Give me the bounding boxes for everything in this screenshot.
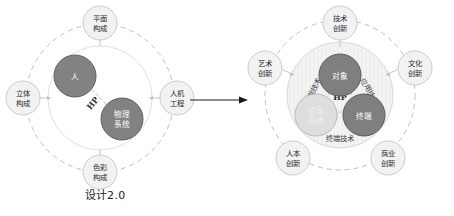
spoke-label-terminal-technology: 终端技术 [326, 134, 354, 143]
core-circle-physical-system-label-1: 物理 [114, 109, 130, 119]
design-2-0-panel: 人 物理 系统 HP 平面 构成 立体 构成 人机 工程 色彩 构成 设计2.0 [0, 0, 227, 216]
outer-node-color-composition-label-1: 色彩 [93, 163, 108, 172]
outer-node-art-innovation-label-1: 艺术 [258, 59, 273, 68]
tick-left-arrowhead [47, 96, 51, 100]
outer-node-ergonomics-label-1: 人机 [170, 89, 185, 98]
outer-node-technology-innovation-label-1: 技术 [333, 14, 348, 23]
design-3-0-svg: HP 创能技术 应用技术 终端技术 对象 信息 系统 终端 技术 创新 艺术 [227, 0, 454, 216]
spoke-tick-upper-left [283, 70, 293, 74]
outer-node-plane-composition-label-1: 平面 [93, 14, 107, 23]
outer-node-solid-composition-label-2: 构成 [16, 99, 31, 108]
outer-node-plane-composition-label-2: 构成 [93, 24, 108, 33]
outer-node-solid-composition-label-1: 立体 [16, 89, 31, 98]
outer-node-humanistic-innovation-label-1: 人本 [286, 149, 301, 158]
core-circle-info-system-label-2: 系统 [308, 115, 324, 125]
core-circle-info-system-label-1: 信息 [308, 105, 324, 115]
core-circle-terminal-label: 终端 [356, 111, 372, 121]
diagram-figure: 人 物理 系统 HP 平面 构成 立体 构成 人机 工程 色彩 构成 设计2.0 [0, 0, 454, 216]
core-circle-physical-system-label-2: 系统 [114, 119, 130, 129]
design-2-0-svg: 人 物理 系统 HP 平面 构成 立体 构成 人机 工程 色彩 构成 [0, 0, 227, 216]
outer-node-business-innovation-label-1: 商业 [381, 149, 395, 158]
outer-node-art-innovation-label-2: 创新 [258, 69, 273, 78]
design-3-0-panel: HP 创能技术 应用技术 终端技术 对象 信息 系统 终端 技术 创新 艺术 [227, 0, 454, 216]
outer-node-ergonomics-label-2: 工程 [170, 99, 185, 108]
outer-node-business-innovation-label-2: 创新 [381, 159, 396, 168]
core-circle-object-label: 对象 [332, 71, 348, 81]
outer-node-color-composition-label-2: 构成 [93, 173, 108, 182]
hp-link-label: HP [85, 95, 101, 112]
tick-right-arrowhead [149, 96, 153, 100]
outer-node-technology-innovation-label-2: 创新 [333, 24, 348, 33]
spoke-tick-upper-right [387, 70, 397, 74]
core-circle-human-label: 人 [71, 73, 79, 82]
outer-node-humanistic-innovation-label-2: 创新 [286, 159, 301, 168]
design-2-0-caption: 设计2.0 [35, 186, 175, 202]
outer-node-culture-innovation-label-1: 文化 [408, 59, 423, 68]
outer-node-culture-innovation-label-2: 创新 [408, 69, 423, 78]
